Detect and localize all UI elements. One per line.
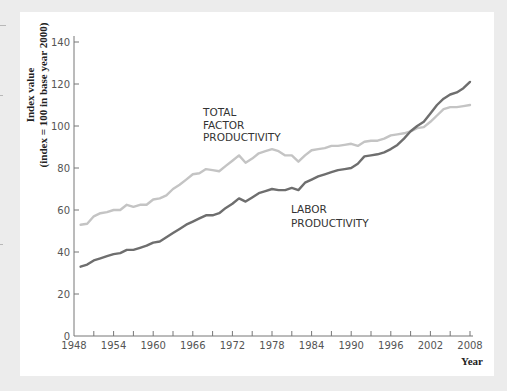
series-label-line: FACTOR [203, 119, 244, 131]
x-tick-label: 1972 [220, 340, 245, 351]
y-axis-title: Index value (index = 100 in base year 20… [24, 22, 50, 167]
x-tick-label: 1948 [61, 340, 86, 351]
y-tick-label: 100 [51, 121, 70, 132]
y-tick-label: 20 [57, 289, 70, 300]
series-labels: TOTALFACTORPRODUCTIVITYLABORPRODUCTIVITY [202, 106, 369, 229]
line-chart: Index value (index = 100 in base year 20… [0, 0, 507, 391]
labor-productivity-label: LABORPRODUCTIVITY [291, 203, 369, 229]
x-tick-label: 1984 [299, 340, 324, 351]
y-tick-label: 80 [57, 163, 70, 174]
y-axis-title-line-1: Index value [24, 68, 36, 123]
x-tick-label: 1978 [259, 340, 284, 351]
series-label-line: LABOR [291, 203, 327, 215]
y-tick-label: 40 [57, 247, 70, 258]
x-tick-label: 1954 [101, 340, 126, 351]
tfp-label: TOTALFACTORPRODUCTIVITY [202, 106, 281, 143]
x-tick-label: 1966 [180, 340, 205, 351]
x-tick-label: 2002 [418, 340, 443, 351]
x-tick-label: 1960 [140, 340, 165, 351]
y-tick-label: 140 [51, 37, 70, 48]
series-label-line: PRODUCTIVITY [203, 131, 281, 143]
series-lines [81, 82, 470, 267]
x-tick-label: 2008 [457, 340, 482, 351]
y-axis-title-line-2: (index = 100 in base year 2000) [37, 22, 50, 167]
tfp-line [81, 105, 470, 225]
x-axis-title: Year [461, 355, 483, 367]
y-tick-label: 60 [57, 205, 70, 216]
x-tick-label: 1990 [338, 340, 363, 351]
y-tick-label: 120 [51, 79, 70, 90]
series-label-line: PRODUCTIVITY [291, 217, 369, 229]
x-tick-label: 1996 [378, 340, 403, 351]
labor-productivity-line [81, 82, 470, 267]
series-label-line: TOTAL [202, 106, 236, 118]
axes: 0204060801001201401948195419601966197219… [51, 36, 483, 351]
